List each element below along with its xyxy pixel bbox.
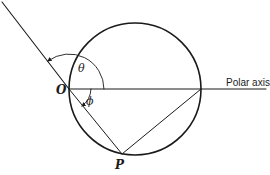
point-p-label: P	[114, 158, 125, 172]
chord-p-to-diameter-end	[122, 89, 201, 154]
theta-label: θ	[78, 62, 85, 75]
polar-coordinates-diagram: O P θ ϕ Polar axis	[0, 0, 270, 175]
phi-label: ϕ	[86, 95, 94, 108]
polar-axis-label: Polar axis	[226, 77, 270, 88]
ray-line	[2, 2, 69, 89]
origin-label: O	[56, 83, 67, 97]
